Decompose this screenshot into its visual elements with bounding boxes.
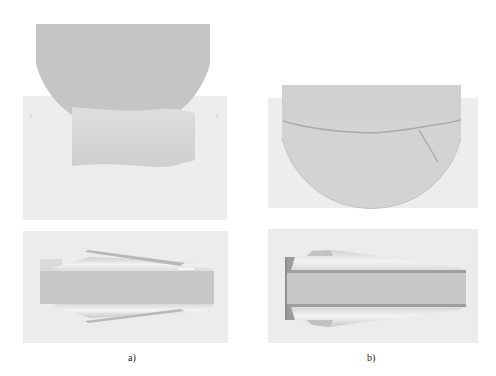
panel-a-label: a): [128, 352, 136, 363]
panel-b-section-view: [268, 229, 478, 343]
panel-b-top-view: [268, 85, 478, 209]
core: [40, 271, 214, 304]
panel-b-label: b): [367, 352, 375, 363]
panel-a-section-view: [23, 231, 228, 343]
workpiece: [72, 107, 195, 167]
core: [285, 270, 466, 307]
figure-canvas: [0, 0, 496, 376]
roll-top-rect: [282, 85, 461, 122]
panel-a-top-view: [23, 24, 227, 220]
